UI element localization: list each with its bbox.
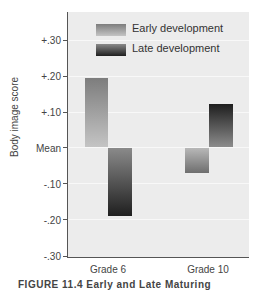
y-tick (63, 219, 68, 220)
legend-swatch-late (96, 44, 126, 56)
x-label-grade6: Grade 6 (78, 264, 138, 275)
bar-grade6-late (108, 148, 132, 216)
y-tick (63, 183, 68, 184)
y-tick-label: -.30 (21, 251, 61, 262)
y-tick-label: +.10 (21, 107, 61, 118)
gridline (68, 40, 249, 41)
legend-swatch-early (96, 24, 126, 36)
y-tick (63, 76, 68, 77)
y-tick (63, 256, 68, 257)
gridline (68, 147, 249, 148)
y-tick-label: Mean (21, 143, 61, 154)
gridline (68, 183, 249, 184)
bar-grade10-late (209, 104, 233, 147)
y-tick-label: +.20 (21, 71, 61, 82)
plot-area: Early development Late development (67, 12, 249, 258)
figure-caption: FIGURE 11.4 Early and Late Maturing (18, 279, 211, 290)
y-tick-label: -.20 (21, 215, 61, 226)
legend-label-early: Early development (132, 22, 223, 34)
y-tick-label: +.30 (21, 35, 61, 46)
bar-grade6-early (85, 78, 108, 147)
y-tick-label: -.10 (21, 179, 61, 190)
y-axis-title: Body image score (9, 137, 20, 157)
x-label-grade10: Grade 10 (178, 264, 238, 275)
gridline (68, 219, 249, 220)
y-tick (63, 112, 68, 113)
gridline (68, 76, 249, 77)
y-tick (63, 40, 68, 41)
bar-grade10-early (185, 148, 209, 173)
legend-label-late: Late development (132, 42, 219, 54)
y-tick (63, 147, 68, 148)
